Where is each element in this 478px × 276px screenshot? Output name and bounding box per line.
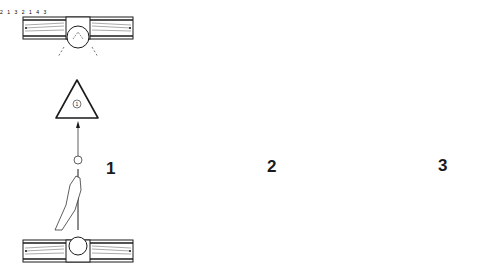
step-label-3: 3 <box>438 156 447 176</box>
rack-triangle: 1 <box>56 80 98 118</box>
step-label-1: 1 <box>106 159 115 179</box>
top-rail <box>23 17 133 57</box>
step-label-2: 2 <box>267 157 276 177</box>
hand-icon <box>55 176 81 230</box>
panel-1: 1 <box>23 17 133 262</box>
svg-text:1: 1 <box>76 101 79 107</box>
billiards-diagram: 1 <box>0 0 478 276</box>
bottom-rail <box>23 237 133 262</box>
